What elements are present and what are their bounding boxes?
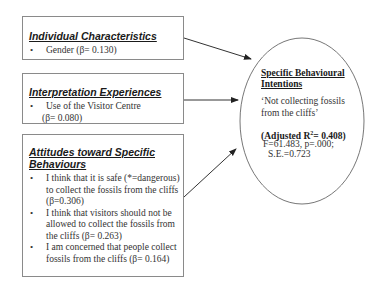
box-attitudes-behaviours: Attitudes toward SpecificBehaviours •I t… [22, 134, 184, 277]
outcome-quote: ‘Not collecting fossilsfrom the cliffs’ [261, 95, 345, 119]
arrow-attitudes-to-outcome [184, 149, 236, 197]
bullet-icon: • [30, 101, 33, 113]
list-item: •Use of the Visitor Centre [29, 101, 183, 113]
list-item: •I am concerned that people collectfossi… [29, 242, 183, 265]
box-title: Interpretation Experiences [29, 86, 183, 98]
model-stats: F=61.483, p=.000;S.E.=0.723 [263, 139, 334, 159]
box-title: Attitudes toward SpecificBehaviours [29, 146, 183, 170]
arrow-individual-to-outcome [184, 38, 251, 59]
box-title: Individual Characteristics [29, 30, 183, 42]
outcome-title: Specific BehaviouralIntentions [261, 68, 345, 90]
bullet-icon: • [30, 208, 33, 220]
box-individual-characteristics: Individual Characteristics •Gender (β= 0… [22, 16, 184, 60]
list-item: •I think that visitors should not beallo… [29, 208, 183, 243]
list-item: •I think that it is safe (*=dangerous)to… [29, 173, 183, 208]
outcome-ellipse [240, 38, 364, 204]
bullet-icon: • [30, 45, 33, 57]
bullet-icon: • [30, 242, 33, 254]
bullet-icon: • [30, 173, 33, 185]
list-item: •Gender (β= 0.130) [29, 45, 183, 57]
box-interpretation-experiences: Interpretation Experiences •Use of the V… [22, 73, 184, 124]
list-item-continuation: (β= 0.080) [29, 113, 183, 125]
